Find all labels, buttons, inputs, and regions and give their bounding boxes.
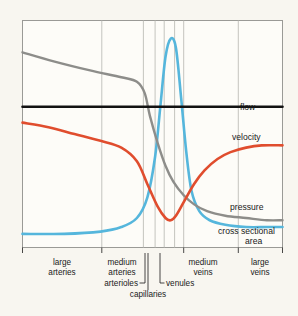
leader-arterioles xyxy=(140,253,146,283)
chart-svg: flow velocity pressure cross sectional a… xyxy=(0,0,298,316)
series-label-cross-sectional-area-line2: area xyxy=(245,236,262,246)
x-label-medium-arteries-line2: arteries xyxy=(108,268,135,277)
series-label-cross-sectional-area-line1: cross sectional xyxy=(218,226,275,236)
x-label-large-veins-line1: large xyxy=(251,258,270,267)
series-label-velocity: velocity xyxy=(232,132,261,142)
x-label-medium-veins-line2: veins xyxy=(193,268,212,277)
vascular-hemodynamics-chart: flow velocity pressure cross sectional a… xyxy=(0,0,298,316)
series-label-flow: flow xyxy=(240,102,256,112)
axis-ticks xyxy=(23,248,283,254)
series-label-pressure: pressure xyxy=(230,202,264,212)
x-label-capillaries: capillaries xyxy=(130,290,166,299)
x-label-large-arteries-line1: large xyxy=(53,258,72,267)
x-axis-labels: large arteries medium arteries arteriole… xyxy=(48,253,269,299)
x-label-medium-veins-line1: medium xyxy=(188,258,217,267)
x-label-venules: venules xyxy=(166,279,194,288)
x-label-large-arteries-line2: arteries xyxy=(48,268,75,277)
x-label-medium-arteries-line1: medium xyxy=(107,258,136,267)
x-label-arterioles: arterioles xyxy=(104,279,138,288)
x-label-large-veins-line2: veins xyxy=(250,268,269,277)
leader-venules xyxy=(160,253,165,283)
